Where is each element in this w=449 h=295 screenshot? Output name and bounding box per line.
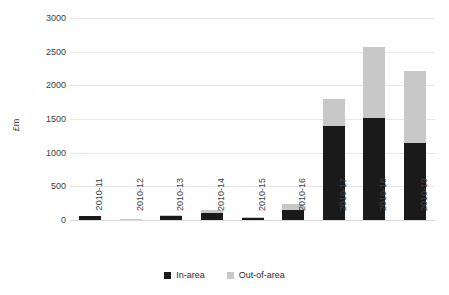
legend-swatch-out-of-area: [227, 272, 234, 279]
y-axis-tick-label: 2500: [26, 47, 66, 57]
x-axis-tick-label: 2010-18: [378, 178, 388, 224]
y-axis-ticks: 300025002000150010005000: [22, 18, 66, 220]
x-axis-tick-label: 2010-11: [94, 178, 104, 224]
legend-item-out-of-area[interactable]: Out-of-area: [227, 271, 285, 280]
y-axis-tick-label: 500: [26, 181, 66, 191]
y-axis-title-label: £m: [11, 100, 21, 150]
x-axis-tick-label: 2010-14: [216, 178, 226, 224]
x-axis-ticks: 2010-112010-122010-132010-142010-152010-…: [70, 224, 435, 270]
x-axis-tick-label: 2010-19: [419, 178, 429, 224]
bar-segment-out-of-area[interactable]: [363, 47, 385, 118]
x-axis-tick-label: 2010-17: [338, 178, 348, 224]
legend-label-out-of-area: Out-of-area: [239, 271, 285, 280]
legend-swatch-in-area: [164, 272, 171, 279]
y-axis-tick-label: 2000: [26, 80, 66, 90]
y-axis-tick-label: 0: [26, 215, 66, 225]
bar-segment-out-of-area[interactable]: [323, 99, 345, 126]
x-axis-tick-label: 2010-15: [257, 178, 267, 224]
bar-chart: £m 300025002000150010005000 2010-112010-…: [0, 0, 449, 295]
x-axis-tick-label: 2010-12: [135, 178, 145, 224]
bar-segment-out-of-area[interactable]: [404, 71, 426, 142]
y-axis-tick-label: 1000: [26, 148, 66, 158]
legend-label-in-area: In-area: [176, 271, 205, 280]
y-axis-tick-label: 1500: [26, 114, 66, 124]
chart-legend: In-area Out-of-area: [0, 267, 449, 283]
x-axis-tick-label: 2010-16: [297, 178, 307, 224]
legend-item-in-area[interactable]: In-area: [164, 271, 205, 280]
x-axis-tick-label: 2010-13: [175, 178, 185, 224]
y-axis-tick-label: 3000: [26, 13, 66, 23]
